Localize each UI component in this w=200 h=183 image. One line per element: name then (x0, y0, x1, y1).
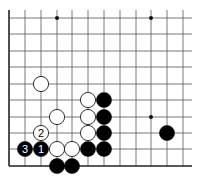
black-stone (159, 125, 174, 140)
white-stone-move-2: 2 (33, 125, 48, 140)
star-point-icon (149, 16, 153, 20)
white-stone (64, 141, 79, 156)
black-stone-move-1: 1 (33, 141, 48, 156)
white-stone (80, 92, 95, 107)
black-stone (96, 92, 111, 107)
white-stone-icon (49, 141, 64, 156)
black-stone-icon (96, 109, 111, 124)
star-point-icon (149, 115, 153, 119)
black-stone (96, 141, 111, 156)
white-stone (49, 109, 64, 124)
move-number-label: 1 (38, 143, 44, 155)
white-stone-icon (49, 109, 64, 124)
black-stone (49, 158, 64, 173)
black-stone-icon (96, 92, 111, 107)
white-stone-icon (80, 92, 95, 107)
white-stone-icon (33, 76, 48, 91)
black-stone (64, 158, 79, 173)
black-stone (96, 125, 111, 140)
black-stone-icon (49, 158, 64, 173)
white-stone (33, 76, 48, 91)
black-stone-icon (96, 125, 111, 140)
white-stone (49, 141, 64, 156)
white-stone-icon (64, 141, 79, 156)
move-number-label: 3 (22, 143, 28, 155)
black-stone (96, 109, 111, 124)
black-stone-icon (80, 141, 95, 156)
black-stone (80, 141, 95, 156)
black-stone-icon (159, 125, 174, 140)
white-stone (80, 109, 95, 124)
white-stone-icon (80, 109, 95, 124)
star-point-icon (55, 16, 59, 20)
black-stone-move-3: 3 (17, 141, 32, 156)
white-stone-icon (80, 125, 95, 140)
move-number-label: 2 (38, 127, 44, 139)
go-board-diagram: 231 (0, 0, 200, 183)
black-stone-icon (64, 158, 79, 173)
black-stone-icon (96, 141, 111, 156)
white-stone (80, 125, 95, 140)
